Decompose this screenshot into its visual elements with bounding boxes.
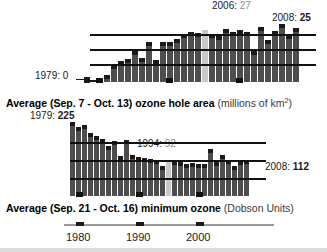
bar-2006 bbox=[279, 24, 285, 82]
caption-unit-text: (millions of km2) bbox=[217, 97, 292, 109]
bar2-1985 bbox=[106, 146, 111, 196]
bar-1986 bbox=[139, 58, 145, 82]
bar-1984 bbox=[125, 59, 131, 82]
bar2-1987 bbox=[118, 156, 123, 196]
ozone-hole-figure: 2006: 27 2008: 25 1979: 0 bbox=[0, 0, 327, 252]
peak-year-value: 27 bbox=[240, 0, 251, 11]
bar-1990 bbox=[167, 42, 173, 82]
caption-strong-text-2: Average (Sep. 21 - Oct. 16) minimum ozon… bbox=[6, 202, 221, 214]
bar2-2002 bbox=[208, 149, 213, 196]
bar-2005 bbox=[272, 31, 278, 82]
area-chart-plot bbox=[90, 18, 316, 82]
x-axis-line bbox=[64, 224, 274, 226]
x-axis-label-2000: 2000 bbox=[186, 231, 210, 243]
gridline-3 bbox=[90, 64, 316, 66]
last-year-value-2: 112 bbox=[293, 161, 309, 172]
bar-2007 bbox=[286, 35, 292, 82]
last-year-label-2: 2008 bbox=[265, 161, 287, 172]
bar-1995-missing bbox=[202, 30, 208, 82]
panel-minimum-ozone: 1979: 225 1994: 92 2008: 112 bbox=[0, 110, 327, 200]
bar-2008 bbox=[293, 28, 299, 82]
bar-1998 bbox=[223, 29, 229, 82]
bar-2000 bbox=[237, 30, 243, 82]
first-year-callout: 1979: 0 bbox=[35, 70, 68, 81]
x-axis-tick-1990 bbox=[136, 222, 144, 226]
caption-unit-text-2: (Dobson Units) bbox=[224, 202, 294, 214]
bar2-1990 bbox=[136, 157, 141, 196]
caption-minimum-ozone: Average (Sep. 21 - Oct. 16) minimum ozon… bbox=[6, 202, 294, 214]
first-year-value-2: 225 bbox=[58, 110, 75, 121]
baseline-tick2-2000 bbox=[196, 192, 203, 197]
bar-1997 bbox=[216, 36, 222, 82]
x-axis-tick-1980 bbox=[76, 222, 84, 226]
bar-1991 bbox=[174, 39, 180, 82]
x-axis-label-1990: 1990 bbox=[126, 231, 150, 243]
first-year-label: 1979 bbox=[35, 70, 57, 81]
panel-ozone-hole-area: 2006: 27 2008: 25 1979: 0 bbox=[0, 0, 327, 92]
bar-1999 bbox=[230, 32, 236, 82]
bar-1996 bbox=[209, 34, 215, 82]
gridline-2 bbox=[90, 49, 316, 51]
baseline-tick-1990 bbox=[166, 78, 173, 83]
gridline-1 bbox=[90, 34, 316, 36]
bar-1987 bbox=[146, 42, 152, 82]
x-axis-tick-2000 bbox=[196, 222, 204, 226]
last-year-callout-2: 2008: 112 bbox=[265, 161, 309, 172]
bar2-1991 bbox=[142, 158, 147, 196]
gridline2-2 bbox=[70, 160, 266, 162]
bar-2004 bbox=[265, 40, 271, 82]
baseline-tick2-1980 bbox=[76, 192, 83, 197]
peak-year-label: 2006 bbox=[212, 0, 234, 11]
gridline2-3 bbox=[70, 178, 266, 180]
baseline-tick-2000 bbox=[236, 78, 243, 83]
x-axis-label-1980: 1980 bbox=[66, 231, 90, 243]
gridline2-1 bbox=[70, 142, 266, 144]
bar-1993 bbox=[188, 32, 194, 82]
bar-2002 bbox=[251, 51, 257, 82]
bar2-1979 bbox=[70, 122, 75, 196]
first-year-callout-2: 1979: 225 bbox=[30, 110, 75, 121]
bar2-1988 bbox=[124, 140, 129, 196]
bar2-1983 bbox=[94, 136, 99, 196]
first-year-value: 0 bbox=[63, 70, 69, 81]
ozone-chart-bars bbox=[70, 121, 266, 196]
first-year-leader bbox=[76, 79, 84, 80]
bar-2001 bbox=[244, 32, 250, 82]
bar-1985 bbox=[132, 51, 138, 82]
ozone-chart-plot bbox=[70, 121, 266, 196]
caption-strong-text: Average (Sep. 7 - Oct. 13) ozone hole ar… bbox=[6, 97, 215, 109]
bar-1992 bbox=[181, 34, 187, 82]
bar-1989 bbox=[160, 42, 166, 82]
bar-1981 bbox=[104, 75, 110, 82]
bar2-1994 bbox=[160, 166, 165, 196]
baseline-tick2-1990 bbox=[136, 192, 143, 197]
first-year-label-2: 1979 bbox=[30, 110, 52, 121]
bar-1994 bbox=[195, 33, 201, 82]
bar2-2006 bbox=[232, 166, 237, 196]
caption-ozone-hole-area: Average (Sep. 7 - Oct. 13) ozone hole ar… bbox=[6, 94, 292, 109]
peak-year-callout: 2006: 27 bbox=[212, 0, 251, 11]
bar-1982 bbox=[111, 65, 117, 82]
bar2-1984 bbox=[100, 139, 105, 196]
baseline-tick-1980 bbox=[96, 78, 103, 83]
footer-divider bbox=[0, 248, 327, 252]
bar2-1998 bbox=[184, 164, 189, 196]
bar2-1986 bbox=[112, 141, 117, 196]
